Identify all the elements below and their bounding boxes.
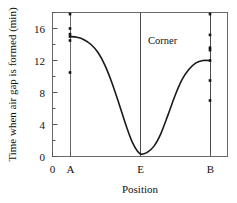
y-tick-label-12: 12 [34, 55, 45, 67]
y-tick-label-16: 16 [34, 23, 46, 35]
data-marker [209, 99, 212, 102]
chart-svg: 0 4 8 12 16 Time when air gap is formed … [0, 0, 237, 203]
data-marker [69, 35, 72, 38]
data-marker [69, 27, 72, 30]
data-marker [209, 34, 212, 37]
y-tick-label-0: 0 [40, 151, 46, 163]
y-tick-label-8: 8 [40, 87, 46, 99]
x-tick-label-0: 0 [50, 163, 56, 175]
data-marker [69, 13, 72, 16]
data-marker [69, 39, 72, 42]
chart-figure: 0 4 8 12 16 Time when air gap is formed … [0, 0, 237, 203]
data-marker [209, 49, 212, 52]
data-marker [209, 79, 212, 82]
x-tick-label-a: A [67, 163, 75, 175]
x-tick-label-e: E [137, 163, 144, 175]
x-axis-title: Position [122, 183, 159, 195]
data-marker [69, 33, 72, 36]
data-marker [209, 59, 212, 62]
data-marker [209, 46, 212, 49]
y-axis-title: Time when air gap is formed (min) [6, 7, 19, 162]
data-marker [209, 13, 212, 16]
data-marker [69, 71, 72, 74]
corner-annotation: Corner [148, 35, 178, 46]
y-tick-label-4: 4 [40, 119, 46, 131]
x-tick-label-b: B [207, 163, 214, 175]
